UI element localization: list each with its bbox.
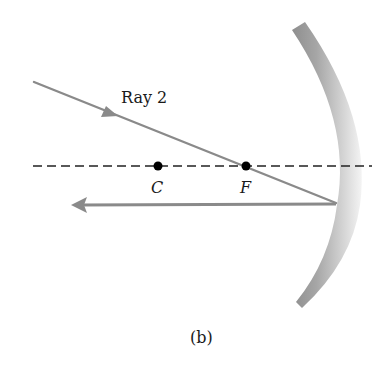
concave-mirror bbox=[292, 22, 362, 308]
focal-point bbox=[242, 162, 251, 171]
ray-label: Ray 2 bbox=[121, 88, 167, 107]
concave-mirror-ray-diagram: Ray 2 C F (b) bbox=[0, 0, 384, 367]
center-of-curvature-point bbox=[154, 162, 163, 171]
point-label-f: F bbox=[239, 178, 252, 197]
point-label-c: C bbox=[151, 178, 163, 197]
reflected-ray bbox=[80, 204, 336, 205]
figure-caption: (b) bbox=[190, 328, 213, 347]
incident-ray-arrow-icon bbox=[101, 106, 118, 117]
incident-ray bbox=[34, 82, 336, 203]
